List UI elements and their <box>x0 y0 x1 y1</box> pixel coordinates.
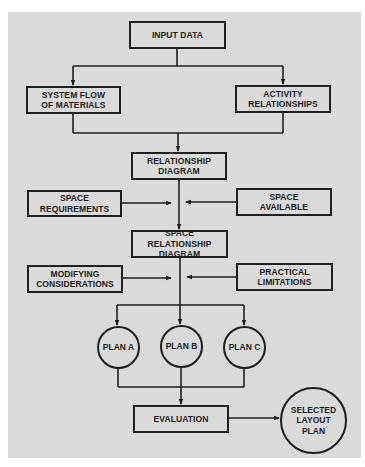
plan-a-node: PLAN A <box>97 326 140 369</box>
plan-c-node: PLAN C <box>223 326 266 369</box>
system-flow-label: SYSTEM FLOW OF MATERIALS <box>41 90 105 111</box>
selected-layout-plan-node: SELECTED LAYOUT PLAN <box>280 387 347 454</box>
system-flow-box: SYSTEM FLOW OF MATERIALS <box>26 86 121 114</box>
practical-limitations-box: PRACTICAL LIMITATIONS <box>236 263 333 291</box>
plan-c-label: PLAN C <box>229 342 261 353</box>
plan-b-label: PLAN B <box>166 341 198 352</box>
relationship-diagram-box: RELATIONSHIP DIAGRAM <box>131 152 227 180</box>
space-requirements-label: SPACE REQUIREMENTS <box>40 193 110 214</box>
input-data-box: INPUT DATA <box>129 21 226 49</box>
modifying-considerations-label: MODIFYING CONSIDERATIONS <box>36 269 114 290</box>
input-data-label: INPUT DATA <box>152 30 203 41</box>
space-requirements-box: SPACE REQUIREMENTS <box>27 190 122 217</box>
space-relationship-diagram-box: SPACE RELATIONSHIP DIAGRAM <box>131 230 228 258</box>
relationship-diagram-label: RELATIONSHIP DIAGRAM <box>147 156 211 177</box>
practical-limitations-label: PRACTICAL LIMITATIONS <box>257 267 311 288</box>
plan-a-label: PLAN A <box>103 342 134 353</box>
modifying-considerations-box: MODIFYING CONSIDERATIONS <box>27 265 123 293</box>
plan-b-node: PLAN B <box>160 325 203 368</box>
evaluation-label: EVALUATION <box>154 414 209 425</box>
space-available-box: SPACE AVAILABLE <box>236 188 332 216</box>
space-available-label: SPACE AVAILABLE <box>260 192 308 213</box>
space-relationship-diagram-label: SPACE RELATIONSHIP DIAGRAM <box>133 228 226 260</box>
activity-relationships-box: ACTIVITY RELATIONSHIPS <box>235 85 331 113</box>
selected-layout-plan-label: SELECTED LAYOUT PLAN <box>291 405 336 437</box>
activity-relationships-label: ACTIVITY RELATIONSHIPS <box>248 89 318 110</box>
evaluation-box: EVALUATION <box>133 405 229 433</box>
